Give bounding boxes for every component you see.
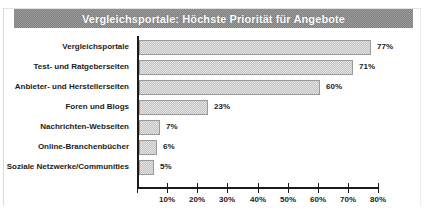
x-axis-tick — [197, 183, 198, 193]
x-axis-tick — [137, 183, 138, 193]
chart-container: Vergleichsportale: Höchste Priorität für… — [0, 0, 424, 214]
bar — [139, 120, 160, 135]
chart-row: Vergleichsportale77% — [0, 37, 424, 57]
chart-title: Vergleichsportale: Höchste Priorität für… — [82, 13, 345, 25]
bar — [139, 140, 157, 155]
chart-row: Nachrichten-Webseiten7% — [0, 117, 424, 137]
x-axis-tick — [378, 183, 379, 193]
category-label: Foren und Blogs — [0, 97, 129, 117]
chart-row: Online-Branchenbücher6% — [0, 137, 424, 157]
bar-value-label: 71% — [359, 57, 375, 77]
y-axis-line — [137, 36, 139, 188]
category-label: Online-Branchenbücher — [0, 137, 129, 157]
x-axis-tick — [348, 183, 349, 193]
bar — [139, 160, 154, 175]
category-label: Anbieter- und Herstellerseiten — [0, 77, 129, 97]
bar — [139, 80, 320, 95]
category-label: Nachrichten-Webseiten — [0, 117, 129, 137]
bar-value-label: 77% — [377, 37, 393, 57]
x-axis-tick — [167, 183, 168, 193]
chart-row: Anbieter- und Herstellerseiten60% — [0, 77, 424, 97]
bar — [139, 40, 371, 55]
bar-value-label: 6% — [163, 137, 175, 157]
bar-value-label: 60% — [326, 77, 342, 97]
bar-value-label: 7% — [166, 117, 178, 137]
category-label: Vergleichsportale — [0, 37, 129, 57]
plot-area: Vergleichsportale77%Test- und Ratgeberse… — [0, 36, 424, 186]
bar — [139, 60, 353, 75]
category-label: Soziale Netzwerke/Communities — [0, 157, 129, 177]
chart-title-band: Vergleichsportale: Höchste Priorität für… — [14, 9, 413, 28]
x-axis-tick — [227, 183, 228, 193]
chart-row: Foren und Blogs23% — [0, 97, 424, 117]
x-axis-tick — [258, 183, 259, 193]
chart-row: Soziale Netzwerke/Communities5% — [0, 157, 424, 177]
bar-value-label: 5% — [160, 157, 172, 177]
bar — [139, 100, 208, 115]
category-label: Test- und Ratgeberseiten — [0, 57, 129, 77]
bar-value-label: 23% — [214, 97, 230, 117]
x-axis-tick — [318, 183, 319, 193]
chart-row: Test- und Ratgeberseiten71% — [0, 57, 424, 77]
x-axis-tick-label: 80% — [358, 195, 398, 204]
x-axis-tick — [288, 183, 289, 193]
